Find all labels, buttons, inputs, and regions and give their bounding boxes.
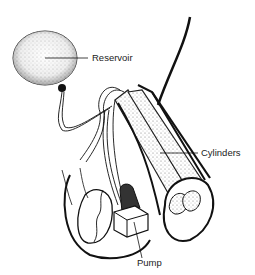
tubing	[58, 87, 125, 205]
cylinders-label: Cylinders	[201, 148, 241, 158]
prosthesis-illustration: Reservoir Cylinders Pump	[0, 0, 255, 275]
body-outline	[158, 17, 190, 105]
pump	[114, 184, 148, 258]
pump-label: Pump	[137, 258, 162, 268]
reservoir-label: Reservoir	[92, 53, 133, 63]
reservoir	[13, 31, 88, 92]
anatomy-drawing	[0, 0, 255, 275]
